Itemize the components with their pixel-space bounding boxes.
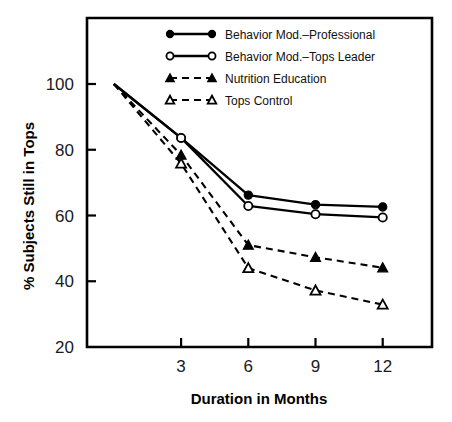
legend-entry: Nutrition Education	[166, 72, 327, 86]
x-tick-label: 9	[311, 357, 320, 376]
line-chart: 20406080100 36912 Behavior Mod.–Professi…	[0, 0, 452, 422]
y-tick-label: 20	[55, 338, 74, 357]
data-point-open-circle	[177, 134, 185, 142]
x-tick-label: 3	[176, 357, 185, 376]
data-point-filled-circle	[244, 191, 252, 199]
legend-label: Nutrition Education	[225, 72, 326, 86]
series-2	[114, 84, 388, 272]
plot-frame	[87, 18, 432, 347]
x-tick-label: 12	[373, 357, 392, 376]
y-axis-ticks	[87, 84, 96, 281]
data-point-open-circle	[379, 213, 387, 221]
data-point-open-triangle	[166, 96, 175, 104]
chart-legend: Behavior Mod.–ProfessionalBehavior Mod.–…	[166, 28, 375, 108]
legend-label: Behavior Mod.–Professional	[225, 28, 375, 42]
x-axis-title: Duration in Months	[191, 390, 328, 407]
data-point-filled-circle	[166, 30, 173, 37]
data-point-open-triangle	[208, 96, 217, 104]
data-point-open-triangle	[378, 300, 388, 309]
data-point-filled-circle	[379, 203, 387, 211]
legend-entry: Behavior Mod.–Tops Leader	[166, 50, 375, 64]
legend-entry: Tops Control	[166, 94, 293, 108]
data-point-filled-circle	[208, 30, 215, 37]
data-point-open-circle	[208, 52, 215, 59]
legend-label: Tops Control	[225, 94, 292, 108]
data-point-open-circle	[311, 210, 319, 218]
y-tick-label: 60	[55, 207, 74, 226]
data-point-open-triangle	[311, 285, 321, 294]
y-tick-label: 80	[55, 141, 74, 160]
data-point-open-circle	[244, 202, 252, 210]
data-point-open-circle	[166, 52, 173, 59]
y-tick-label: 40	[55, 272, 74, 291]
x-tick-label: 6	[244, 357, 253, 376]
x-axis-ticks	[181, 338, 383, 347]
chart-figure: 20406080100 36912 Behavior Mod.–Professi…	[0, 0, 452, 422]
data-point-open-triangle	[243, 263, 253, 272]
data-point-filled-circle	[311, 201, 319, 209]
y-axis-tick-labels: 20406080100	[46, 75, 74, 357]
legend-entry: Behavior Mod.–Professional	[166, 28, 375, 42]
y-tick-label: 100	[46, 75, 74, 94]
legend-label: Behavior Mod.–Tops Leader	[225, 50, 375, 64]
series-layer	[114, 84, 388, 309]
x-axis-tick-labels: 36912	[176, 357, 392, 376]
y-axis-title: % Subjects Still in Tops	[20, 122, 37, 290]
